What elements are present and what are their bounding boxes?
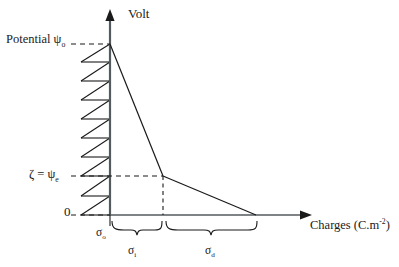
x-axis bbox=[110, 210, 312, 219]
zeta-label-prefix: ζ = bbox=[29, 167, 47, 181]
zeta-potential-label: ζ = ψe bbox=[29, 168, 59, 183]
sigma-i-subscript: i bbox=[134, 251, 136, 259]
sigma-d-brace bbox=[166, 221, 257, 235]
sigma-d-label: σd bbox=[205, 245, 215, 259]
sigma-d-subscript: d bbox=[211, 251, 215, 259]
sigma-i-brace bbox=[112, 221, 162, 235]
surface-hatching bbox=[81, 44, 110, 215]
x-axis-label: Charges (C.m-2) bbox=[310, 218, 390, 232]
potential-psi-zero-label: Potential ψo bbox=[6, 33, 65, 48]
y-axis bbox=[105, 9, 114, 215]
sigma-o-subscript: o bbox=[102, 233, 106, 241]
x-axis-label-text: Charges (C.m bbox=[310, 218, 379, 232]
psi-e-subscript: e bbox=[55, 175, 58, 184]
potential-profile-curve bbox=[110, 44, 256, 215]
x-axis-label-tail: ) bbox=[386, 218, 390, 232]
zero-level-label: 0 bbox=[64, 205, 71, 218]
sigma-o-label: σo bbox=[96, 227, 106, 241]
figure-canvas: Potential ψo ζ = ψe 0 Volt Charges (C.m-… bbox=[0, 0, 399, 267]
sigma-i-label: σi bbox=[128, 245, 136, 259]
potential-label-text: Potential bbox=[6, 32, 54, 46]
psi-zero-subscript: o bbox=[61, 40, 65, 49]
y-axis-label: Volt bbox=[128, 7, 149, 20]
